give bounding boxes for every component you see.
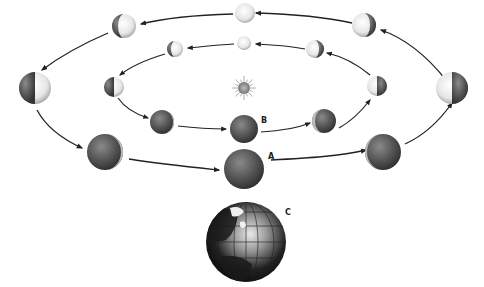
- moon-full: [235, 3, 255, 23]
- arrow: [256, 13, 352, 23]
- arrow: [256, 44, 305, 49]
- arrow: [405, 103, 452, 144]
- sun-ray: [250, 90, 253, 91]
- earth-globe-icon: [206, 202, 286, 282]
- arrow: [188, 44, 234, 48]
- outer-orbit-moons: [19, 3, 468, 189]
- moon-waxing-crescent: [312, 109, 336, 133]
- arrow: [271, 150, 366, 160]
- sun-ray: [236, 85, 239, 86]
- moon-orbit-diagram: B A C: [0, 0, 484, 287]
- label-a: A: [268, 152, 275, 161]
- arrow: [129, 159, 219, 170]
- sun-ray: [248, 80, 252, 84]
- moon-first-quarter: [367, 76, 387, 96]
- arrow: [327, 53, 370, 75]
- sun-ray: [236, 90, 239, 91]
- moon-waning-crescent: [150, 110, 174, 134]
- moon-waxing-gibbous: [306, 40, 324, 58]
- sun-ray: [250, 85, 253, 86]
- arrow: [118, 98, 148, 118]
- sun-ray: [246, 80, 247, 83]
- arrow: [37, 110, 82, 148]
- sun-ray: [246, 94, 247, 97]
- sun-icon: [232, 76, 256, 100]
- arrow: [178, 126, 226, 129]
- moon-third-quarter: [104, 77, 124, 97]
- arrow: [141, 14, 233, 24]
- arrow: [339, 100, 370, 128]
- moon-first-quarter: [436, 72, 468, 104]
- moon-new-b: [230, 115, 258, 143]
- sun-ray: [241, 94, 242, 97]
- moon-waxing-gibbous: [352, 13, 376, 37]
- label-c: C: [285, 208, 291, 217]
- moon-waning-gibbous: [112, 14, 136, 38]
- moon-waning-gibbous: [167, 41, 183, 57]
- arrow: [261, 123, 310, 132]
- arrow: [120, 54, 165, 75]
- moon-full: [237, 36, 251, 50]
- moon-waning-crescent: [87, 134, 123, 170]
- moon-third-quarter: [19, 72, 51, 104]
- moon-waxing-crescent: [365, 134, 401, 170]
- sun-ray: [236, 92, 240, 96]
- moon-new-a: [224, 149, 264, 189]
- arrow: [381, 30, 446, 80]
- label-b: B: [261, 116, 267, 125]
- sun-ray: [248, 92, 252, 96]
- sun-ray: [236, 80, 240, 84]
- sun-ray: [241, 80, 242, 83]
- arrow: [42, 33, 108, 70]
